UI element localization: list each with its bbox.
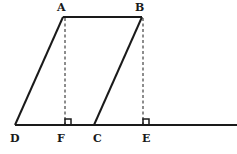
parallelogram-diagram: A B D F C E — [0, 0, 237, 154]
label-a: A — [56, 1, 66, 14]
label-e: E — [142, 132, 150, 145]
label-f: F — [57, 132, 65, 145]
label-c: C — [93, 132, 102, 145]
label-b: B — [135, 1, 144, 14]
segment-bc — [94, 17, 142, 125]
segment-ad — [15, 17, 63, 125]
label-d: D — [10, 132, 20, 145]
